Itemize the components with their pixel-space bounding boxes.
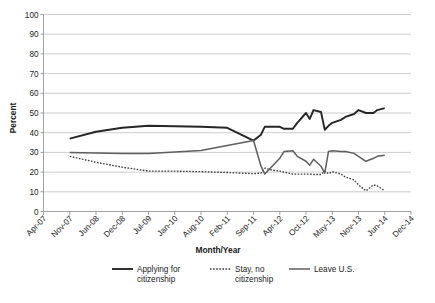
y-tick-label: 40 <box>29 129 39 138</box>
legend-label-0: Applying for <box>137 265 181 274</box>
x-tick-label: Jul-09 <box>131 214 153 236</box>
y-tick-label: 90 <box>29 30 39 39</box>
y-tick-label: 80 <box>29 50 39 59</box>
series-line-1 <box>70 156 385 190</box>
x-tick-label: Dec-08 <box>102 214 127 239</box>
legend-label-1: Stay, no <box>235 265 265 274</box>
line-chart: 0102030405060708090100 Apr-07Nov-07Jun-0… <box>0 0 435 303</box>
series-line-2 <box>70 141 385 174</box>
x-tick-label: Sep-11 <box>234 214 259 239</box>
y-tick-label: 30 <box>29 148 39 157</box>
x-tick-label: Apr-12 <box>261 214 285 238</box>
legend: Applying forcitizenshipStay, nocitizensh… <box>112 265 355 284</box>
data-series <box>70 108 385 191</box>
x-tick-label: Nov-13 <box>338 214 363 239</box>
x-tick-label: Jun-08 <box>77 214 101 238</box>
legend-label-0-line2: citizenship <box>137 275 176 284</box>
x-tick-label: Nov-07 <box>50 214 75 239</box>
x-tick-label: Jan-10 <box>156 214 180 238</box>
x-tick-label: Oct-12 <box>287 214 311 238</box>
x-tick-label: Apr-07 <box>25 214 49 238</box>
x-tick-label: May-13 <box>311 214 337 240</box>
x-tick-label: Jun-14 <box>366 214 390 238</box>
y-tick-label: 60 <box>29 89 39 98</box>
x-tick-label: Feb-11 <box>208 214 233 239</box>
y-tick-label: 50 <box>29 109 39 118</box>
x-tick-label: Dec-14 <box>391 214 416 239</box>
y-tick-label: 0 <box>34 208 39 217</box>
y-tick-label: 10 <box>29 188 39 197</box>
y-axis <box>41 15 44 212</box>
legend-label-1-line2: citizenship <box>235 275 274 284</box>
x-axis-title: Month/Year <box>195 245 241 255</box>
legend-label-2: Leave U.S. <box>314 265 355 274</box>
chart-container: 0102030405060708090100 Apr-07Nov-07Jun-0… <box>0 0 435 303</box>
y-tick-label: 70 <box>29 70 39 79</box>
x-tick-label: Aug-10 <box>181 214 206 239</box>
y-axis-title: Percent <box>8 102 18 133</box>
y-tick-label: 20 <box>29 168 39 177</box>
y-tick-label: 100 <box>25 11 39 20</box>
y-tick-labels: 0102030405060708090100 <box>25 11 39 217</box>
x-tick-labels: Apr-07Nov-07Jun-08Dec-08Jul-09Jan-10Aug-… <box>25 214 417 240</box>
